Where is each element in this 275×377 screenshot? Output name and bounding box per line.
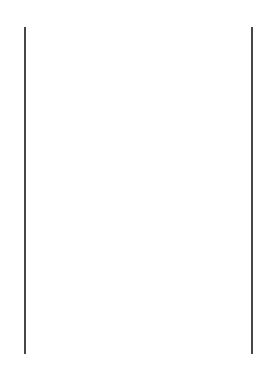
loom-frame [25, 27, 252, 354]
weaving-diagram [0, 0, 275, 377]
